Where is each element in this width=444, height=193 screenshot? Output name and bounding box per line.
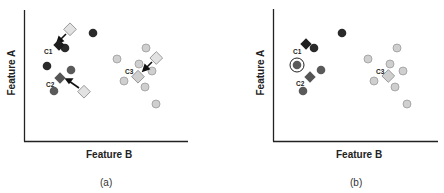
centroid-c3 bbox=[132, 70, 145, 83]
cluster-c1-points bbox=[310, 29, 347, 53]
reassigned-point bbox=[290, 58, 304, 72]
y-axis-label: Feature A bbox=[255, 46, 266, 96]
label-c3: C3 bbox=[125, 68, 134, 75]
y-axis-label: Feature A bbox=[6, 46, 17, 96]
panel-caption: (a) bbox=[100, 177, 112, 188]
centroid-c2 bbox=[304, 71, 315, 82]
panel-a: C1 C2 C3 Feature A Feature B (a) bbox=[0, 0, 222, 193]
label-c2: C2 bbox=[296, 80, 305, 87]
label-c1: C1 bbox=[44, 48, 53, 55]
scatter-plot-b: C1 C2 C3 bbox=[222, 0, 444, 193]
x-axis-label: Feature B bbox=[86, 149, 132, 160]
label-c3: C3 bbox=[376, 68, 385, 75]
panel-caption: (b) bbox=[350, 177, 362, 188]
panel-b: C1 C2 C3 Feature A Feature B (b) bbox=[222, 0, 444, 193]
label-c2: C2 bbox=[46, 81, 55, 88]
label-c1: C1 bbox=[293, 48, 302, 55]
centroid-c2 bbox=[54, 72, 65, 83]
scatter-plot-a: C1 C2 C3 bbox=[0, 0, 222, 193]
x-axis-label: Feature B bbox=[336, 149, 382, 160]
